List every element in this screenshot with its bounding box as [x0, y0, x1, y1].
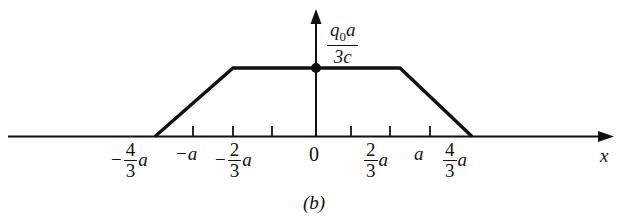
origin-tick-label: 0 — [309, 144, 319, 164]
fraction-numerator: 2 — [228, 140, 242, 161]
x-axis-arrowhead — [598, 131, 614, 142]
fraction-denominator: 3 — [443, 161, 457, 181]
unit-a: a — [379, 149, 389, 170]
unit-a: a — [242, 149, 252, 170]
tick-label-two-thirds-a: 23a — [363, 141, 388, 182]
fraction-two-thirds: 23 — [228, 140, 242, 181]
fraction-four-thirds: 43 — [124, 140, 138, 181]
minus-sign: − — [176, 143, 187, 164]
tick-label-a: a — [414, 144, 424, 163]
fraction-numerator: 4 — [124, 140, 138, 161]
x-axis-ticks — [193, 126, 430, 137]
figure-panel-b: q0a 3c x 0 −43a −a −23a 23a a 43a (b) — [0, 0, 627, 223]
unit-a: a — [188, 143, 198, 164]
fraction-denominator: 3 — [364, 161, 378, 181]
fraction-four-thirds: 43 — [443, 140, 457, 181]
y-axis-label-denominator: 3c — [327, 46, 358, 68]
unit-a: a — [414, 143, 424, 164]
tick-label-four-thirds-a: 43a — [442, 141, 467, 182]
y-axis-arrowhead — [311, 9, 322, 24]
fraction-numerator: 4 — [443, 140, 457, 161]
minus-sign: − — [215, 149, 226, 170]
fraction-denominator: 3 — [228, 161, 242, 181]
y-axis-label-numerator: q0a — [327, 20, 358, 46]
minus-sign: − — [111, 149, 122, 170]
fraction-denominator: 3 — [124, 161, 138, 181]
plot-canvas — [0, 0, 627, 223]
fraction-numerator: 2 — [364, 140, 378, 161]
peak-value-dot — [311, 63, 321, 73]
trapezoid-curve — [155, 68, 472, 137]
tick-label-neg-two-thirds-a: −23a — [215, 141, 252, 182]
tick-label-neg-four-thirds-a: −43a — [111, 141, 148, 182]
figure-caption: (b) — [303, 193, 325, 212]
tick-label-neg-a: −a — [176, 144, 197, 163]
y-axis-value-label: q0a 3c — [327, 20, 358, 68]
unit-a: a — [458, 149, 468, 170]
x-axis-label: x — [600, 146, 608, 165]
unit-a: a — [138, 149, 148, 170]
fraction-two-thirds: 23 — [364, 140, 378, 181]
